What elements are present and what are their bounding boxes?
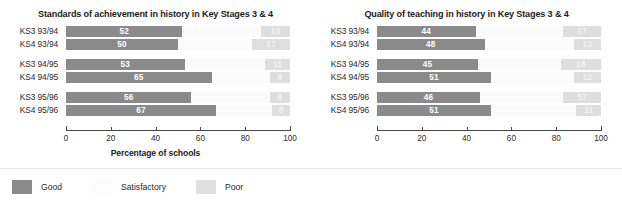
bar-segment-satis <box>182 26 260 37</box>
bar-segment-satis <box>491 105 576 116</box>
category-label: KS3 93/94 <box>0 26 58 37</box>
axis-tick <box>290 126 291 131</box>
bar-value-label: 67 <box>66 105 216 116</box>
bar-track: 4417 <box>377 26 601 37</box>
category-label: KS3 94/95 <box>0 59 58 70</box>
legend-swatch-icon <box>196 180 216 194</box>
bar-value-label: 56 <box>66 92 191 103</box>
x-axis-tick-labels: 020406080100 <box>377 133 601 145</box>
bar-track: 659 <box>66 72 290 83</box>
bar-track: 4617 <box>377 92 601 103</box>
bar-row: KS4 95/96678 <box>0 105 311 116</box>
bar-value-label: 51 <box>377 105 491 116</box>
bar-row: KS3 94/954518 <box>311 59 622 70</box>
x-axis-tick-labels: 020406080100 <box>66 133 290 145</box>
chart-page: Standards of achievement in history in K… <box>0 0 622 206</box>
bar-group: KS3 93/944417KS4 93/944812 <box>311 26 622 53</box>
bar-value-label: 51 <box>377 72 491 83</box>
category-label: KS4 94/95 <box>311 72 369 83</box>
bar-segment-poor: 11 <box>576 105 601 116</box>
bar-segment-good: 67 <box>66 105 216 116</box>
legend-item[interactable]: Poor <box>196 180 243 194</box>
category-label: KS4 93/94 <box>311 39 369 50</box>
bar-row: KS3 94/955311 <box>0 59 311 70</box>
bar-value-label: 9 <box>270 72 290 83</box>
x-axis <box>377 130 601 131</box>
bar-segment-poor: 8 <box>272 105 290 116</box>
bar-segment-satis <box>212 72 270 83</box>
category-label: KS3 95/96 <box>0 92 58 103</box>
bar-row: KS4 94/955112 <box>311 72 622 83</box>
bar-segment-poor: 17 <box>252 39 290 50</box>
bar-group: KS3 95/964617KS4 95/965111 <box>311 92 622 119</box>
bar-segment-good: 51 <box>377 105 491 116</box>
bar-value-label: 18 <box>561 59 601 70</box>
legend-swatch-icon <box>12 180 32 194</box>
bar-value-label: 17 <box>252 39 290 50</box>
bar-segment-satis <box>191 92 269 103</box>
bar-segment-poor: 9 <box>270 72 290 83</box>
bar-value-label: 44 <box>377 26 476 37</box>
axis-tick <box>66 126 67 131</box>
bar-segment-satis <box>485 39 575 50</box>
axis-tick <box>601 126 602 131</box>
charts-container: Standards of achievement in history in K… <box>0 0 622 160</box>
bar-value-label: 9 <box>270 92 290 103</box>
bar-track: 5017 <box>66 39 290 50</box>
bar-segment-satis <box>480 92 563 103</box>
bar-segment-good: 51 <box>377 72 491 83</box>
axis-tick <box>467 127 468 131</box>
bar-value-label: 17 <box>563 92 601 103</box>
category-label: KS3 95/96 <box>311 92 369 103</box>
bar-segment-satis <box>476 26 563 37</box>
bar-segment-good: 48 <box>377 39 485 50</box>
category-label: KS4 95/96 <box>311 105 369 116</box>
bar-group: KS3 95/96569KS4 95/96678 <box>0 92 311 119</box>
bar-segment-poor: 17 <box>563 26 601 37</box>
bar-track: 569 <box>66 92 290 103</box>
category-label: KS4 95/96 <box>0 105 58 116</box>
bar-segment-satis <box>478 59 561 70</box>
bar-value-label: 17 <box>563 26 601 37</box>
axis-tick <box>556 127 557 131</box>
legend-item[interactable]: Good <box>12 180 62 194</box>
axis-tick-label: 0 <box>64 133 69 145</box>
bar-track: 5311 <box>66 59 290 70</box>
axis-tick-label: 80 <box>241 133 250 145</box>
bar-segment-poor: 13 <box>261 26 290 37</box>
bar-value-label: 13 <box>261 26 290 37</box>
chart-panel-standards: Standards of achievement in history in K… <box>0 0 311 160</box>
legend-label: Good <box>41 182 62 192</box>
axis-tick-label: 60 <box>507 133 516 145</box>
bar-segment-satis <box>491 72 574 83</box>
axis-tick-label: 80 <box>552 133 561 145</box>
legend-item[interactable]: Satisfactory <box>92 180 166 194</box>
plot-area: KS3 93/945213KS4 93/945017KS3 94/955311K… <box>0 26 311 130</box>
bar-track: 4812 <box>377 39 601 50</box>
legend-swatch-icon <box>92 180 112 194</box>
bar-value-label: 12 <box>574 72 601 83</box>
bar-track: 5213 <box>66 26 290 37</box>
bar-value-label: 11 <box>265 59 290 70</box>
axis-tick-label: 100 <box>283 133 297 145</box>
bar-segment-good: 53 <box>66 59 185 70</box>
category-label: KS3 93/94 <box>311 26 369 37</box>
bar-row: KS3 93/945213 <box>0 26 311 37</box>
bar-value-label: 52 <box>66 26 182 37</box>
x-axis <box>66 130 290 131</box>
bar-track: 678 <box>66 105 290 116</box>
bar-value-label: 11 <box>576 105 601 116</box>
bar-value-label: 50 <box>66 39 178 50</box>
bar-value-label: 65 <box>66 72 212 83</box>
bar-segment-good: 50 <box>66 39 178 50</box>
bar-row: KS4 93/945017 <box>0 39 311 50</box>
axis-tick <box>377 126 378 131</box>
bar-segment-poor: 12 <box>574 72 601 83</box>
category-label: KS3 94/95 <box>311 59 369 70</box>
bar-group: KS3 94/955311KS4 94/95659 <box>0 59 311 86</box>
chart-title: Standards of achievement in history in K… <box>0 9 311 19</box>
bar-segment-poor: 9 <box>270 92 290 103</box>
bar-group: KS3 93/945213KS4 93/945017 <box>0 26 311 53</box>
bar-segment-good: 52 <box>66 26 182 37</box>
bar-segment-good: 65 <box>66 72 212 83</box>
